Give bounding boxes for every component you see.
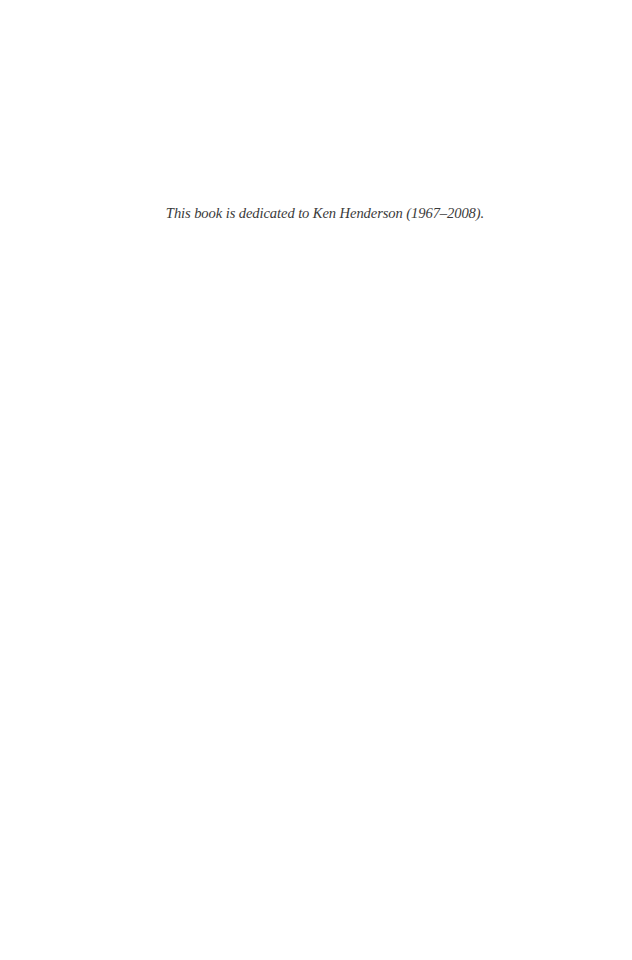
dedication-text: This book is dedicated to Ken Henderson … (0, 204, 632, 222)
book-page: This book is dedicated to Ken Henderson … (0, 0, 632, 960)
